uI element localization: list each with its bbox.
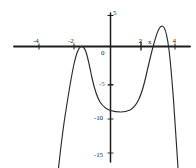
y-tick-label-pos5: 5 bbox=[113, 10, 116, 17]
y-tick-label-neg10: -10 bbox=[94, 115, 103, 122]
x-tick-label-pos4: 4 bbox=[173, 38, 176, 45]
plot-canvas bbox=[0, 0, 196, 168]
y-tick-label-neg5: -5 bbox=[99, 81, 104, 88]
graph-figure: -4 -2 2 4 x 5 0 -5 -10 -15 bbox=[0, 0, 196, 168]
x-tick-label-neg4: -4 bbox=[33, 38, 38, 45]
x-axis-label: x bbox=[148, 39, 152, 46]
y-tick-label-zero: 0 bbox=[101, 50, 104, 57]
x-tick-label-neg2: -2 bbox=[68, 38, 73, 45]
x-tick-label-pos2: 2 bbox=[139, 38, 142, 45]
y-tick-label-neg15: -15 bbox=[94, 152, 103, 159]
